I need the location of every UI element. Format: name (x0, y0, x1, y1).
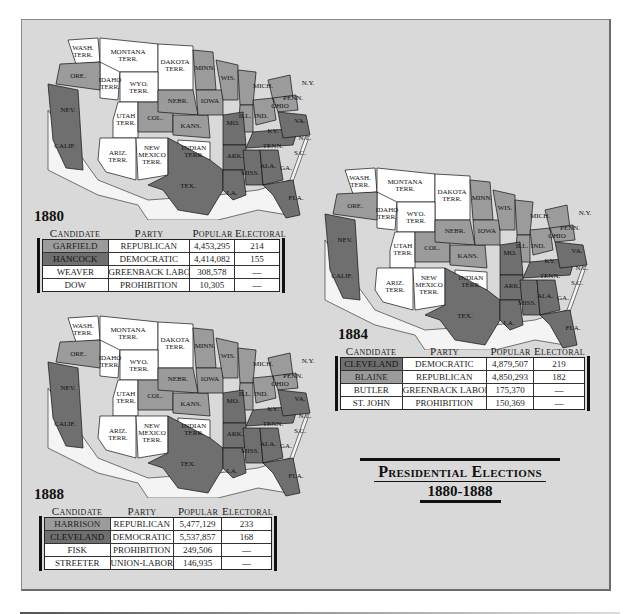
svg-text:GA.: GA. (280, 442, 292, 450)
table-row: FISKPROHIBITION249,506— (45, 543, 271, 556)
svg-text:TERR.: TERR. (184, 429, 204, 437)
cell-candidate: CLEVELAND (341, 358, 402, 370)
svg-text:IND.: IND. (254, 112, 268, 120)
svg-text:KY.: KY. (268, 405, 279, 413)
svg-text:TERR.: TERR. (73, 51, 93, 59)
cell-party: GREENBACK LABOR (402, 384, 486, 396)
svg-text:COL.: COL. (147, 392, 163, 400)
svg-text:N.C.: N.C. (298, 134, 311, 142)
title-rule-top (360, 458, 560, 461)
cell-candidate: GARFIELD (43, 240, 108, 252)
svg-text:MICH.: MICH. (253, 360, 273, 368)
svg-text:MICH.: MICH. (530, 212, 550, 220)
cell-party: REPUBLICAN (110, 518, 174, 530)
svg-text:CALIF.: CALIF. (54, 420, 76, 428)
svg-text:MO.: MO. (503, 249, 516, 257)
svg-text:ARK.: ARK. (504, 282, 521, 290)
svg-text:MINN.: MINN. (195, 64, 216, 72)
svg-text:MINN.: MINN. (195, 342, 216, 350)
svg-text:FLA.: FLA. (566, 324, 581, 332)
svg-text:ORE.: ORE. (347, 202, 363, 210)
svg-text:ILL.: ILL. (239, 112, 252, 120)
svg-text:TERR.: TERR. (142, 436, 162, 444)
table-row: HANCOCKDEMOCRATIC4,414,082155 (43, 252, 279, 265)
svg-text:TEX.: TEX. (457, 312, 473, 320)
svg-text:TENN.: TENN. (540, 272, 561, 280)
cell-electoral: — (234, 266, 279, 278)
table-row: GARFIELDREPUBLICAN4,453,295214 (43, 240, 279, 252)
svg-text:TERR.: TERR. (419, 288, 439, 296)
results-table-1888: Candidate Party Popular Electoral HARRIS… (44, 505, 272, 570)
cell-popular: 10,305 (189, 279, 234, 291)
svg-text:KY.: KY. (545, 257, 556, 265)
svg-text:TERR.: TERR. (118, 55, 138, 63)
svg-text:TENN.: TENN. (263, 142, 284, 150)
svg-text:TERR.: TERR. (165, 65, 185, 73)
svg-text:KANS.: KANS. (181, 122, 202, 130)
cell-candidate: BUTLER (341, 384, 402, 396)
cell-party: UNION-LABOR (110, 557, 174, 569)
cell-candidate: HANCOCK (43, 253, 108, 265)
svg-text:N.Y.: N.Y. (302, 79, 315, 87)
svg-text:TERR.: TERR. (165, 343, 185, 351)
cell-electoral: — (234, 279, 279, 291)
svg-text:GA.: GA. (557, 294, 569, 302)
svg-text:IND.: IND. (531, 242, 545, 250)
svg-text:TERR.: TERR. (108, 156, 128, 164)
svg-text:ORE.: ORE. (70, 72, 86, 80)
page-title: Presidential Elections 1880-1888 (360, 458, 560, 503)
svg-text:ORE.: ORE. (70, 350, 86, 358)
svg-text:WIS.: WIS. (221, 74, 236, 82)
cell-electoral: 219 (533, 358, 584, 370)
cell-electoral: 182 (533, 371, 584, 383)
svg-text:TEX.: TEX. (180, 460, 196, 468)
svg-text:TERR.: TERR. (118, 333, 138, 341)
svg-text:MISS.: MISS. (518, 299, 536, 307)
svg-text:FLA.: FLA. (289, 194, 304, 202)
svg-text:GA.: GA. (280, 164, 292, 172)
svg-text:LA.: LA. (503, 319, 514, 327)
svg-text:NEV.: NEV. (337, 236, 352, 244)
svg-text:COL.: COL. (147, 114, 163, 122)
svg-text:TERR.: TERR. (461, 281, 481, 289)
title-years: 1880-1888 (420, 483, 501, 503)
cell-popular: 249,506 (173, 544, 221, 556)
svg-text:MO.: MO. (226, 119, 239, 127)
svg-text:PENN.: PENN. (283, 372, 303, 380)
svg-text:TERR.: TERR. (100, 361, 120, 369)
svg-text:TERR.: TERR. (442, 195, 462, 203)
svg-text:KANS.: KANS. (458, 252, 479, 260)
cell-party: REPUBLICAN (108, 240, 189, 252)
svg-text:S.C.: S.C. (571, 279, 583, 287)
svg-text:OHIO: OHIO (271, 380, 289, 388)
svg-text:ILL.: ILL. (516, 242, 529, 250)
svg-text:MISS.: MISS. (241, 169, 259, 177)
map-1880: WASH.TERR. MONTANATERR. DAKOTATERR. IDAH… (28, 20, 328, 220)
svg-text:TERR.: TERR. (395, 185, 415, 193)
svg-text:TERR.: TERR. (129, 87, 149, 95)
cell-popular: 175,370 (486, 384, 533, 396)
year-label-1884: 1884 (338, 326, 368, 343)
table-row: STREETERUNION-LABOR146,935— (45, 556, 271, 569)
svg-text:TERR.: TERR. (116, 119, 136, 127)
svg-text:ARK.: ARK. (227, 152, 244, 160)
svg-text:MISS.: MISS. (241, 447, 259, 455)
cell-popular: 5,477,129 (173, 518, 221, 530)
svg-text:TEX.: TEX. (180, 182, 196, 190)
cell-party: PROHIBITION (110, 544, 174, 556)
svg-text:OHIO: OHIO (548, 232, 566, 240)
svg-text:NEBR.: NEBR. (445, 227, 466, 235)
svg-text:LA.: LA. (226, 467, 237, 475)
svg-text:NEV.: NEV. (60, 384, 75, 392)
svg-text:ALA.: ALA. (260, 440, 276, 448)
table-body: CLEVELANDDEMOCRATIC4,879,507219BLAINEREP… (340, 357, 585, 410)
cell-electoral: 233 (221, 518, 271, 530)
svg-text:N.Y.: N.Y. (579, 209, 592, 217)
svg-text:ALA.: ALA. (260, 162, 276, 170)
svg-text:CALIF.: CALIF. (54, 142, 76, 150)
cell-candidate: STREETER (45, 557, 110, 569)
table-header: Candidate Party Popular Electoral (42, 227, 280, 239)
table-body: GARFIELDREPUBLICAN4,453,295214HANCOCKDEM… (42, 239, 280, 292)
svg-text:N.C.: N.C. (298, 412, 311, 420)
cell-popular: 4,414,082 (189, 253, 234, 265)
